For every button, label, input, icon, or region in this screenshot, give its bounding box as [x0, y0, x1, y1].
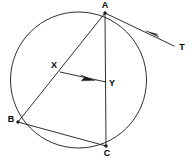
main-circle — [11, 12, 147, 148]
label-point-y: Y — [109, 78, 115, 88]
chord-ac — [105, 13, 106, 146]
label-point-a: A — [102, 0, 109, 10]
tangent-arrowhead — [146, 31, 160, 37]
label-point-b: B — [8, 114, 15, 124]
label-point-c: C — [104, 148, 111, 158]
chord-ab — [18, 13, 105, 122]
label-point-t: T — [179, 42, 185, 52]
geometry-canvas: A B C X Y T — [0, 0, 195, 162]
vertex-dot-a — [103, 11, 106, 14]
geometry-diagram: A B C X Y T — [0, 0, 195, 162]
tangent-at — [105, 13, 174, 46]
chord-bc — [18, 122, 106, 146]
xy-arrowhead — [81, 75, 96, 81]
vertex-dot-b — [16, 120, 19, 123]
label-point-x: X — [51, 60, 57, 70]
